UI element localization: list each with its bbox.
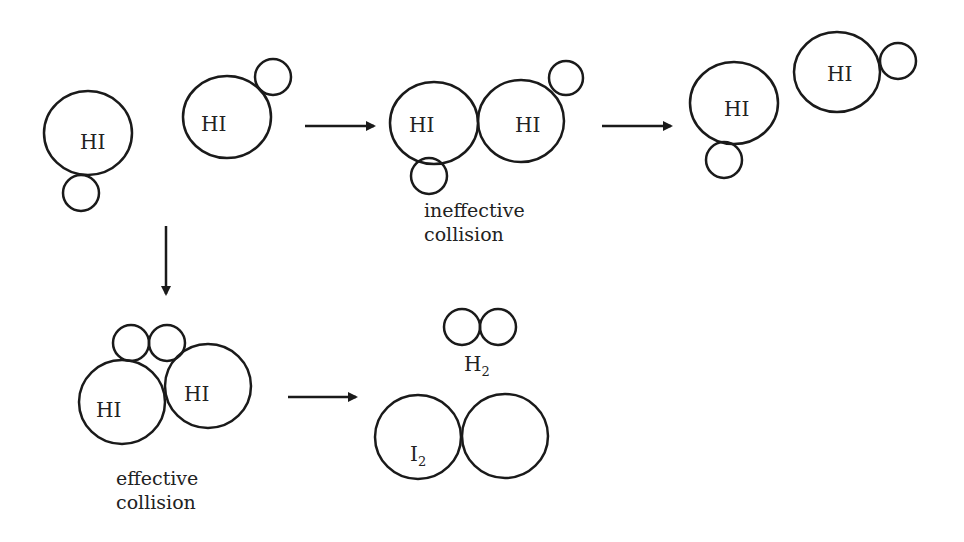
label-ineffective-hi-1: HI <box>409 115 434 135</box>
caption-effective-collision: effective collision <box>116 466 198 514</box>
label-reactant-hi-2: HI <box>201 114 226 134</box>
label-effective-hi-1: HI <box>96 400 121 420</box>
label-h2: H2 <box>464 354 490 378</box>
product-h2 <box>444 309 516 345</box>
label-rebound-hi-2: HI <box>827 64 852 84</box>
rebound-hi-2 <box>794 32 916 112</box>
effective-cluster <box>79 325 251 444</box>
label-rebound-hi-1: HI <box>724 99 749 119</box>
h2-subscript: 2 <box>481 364 489 379</box>
caption-line-1: effective <box>116 466 198 490</box>
i2-subscript: 2 <box>418 454 426 469</box>
label-i2: I2 <box>410 444 426 468</box>
product-i2 <box>375 394 548 479</box>
caption-ineffective-collision: ineffective collision <box>424 198 525 246</box>
caption-line-2: collision <box>116 490 198 514</box>
i2-symbol: I <box>410 442 418 466</box>
label-effective-hi-2: HI <box>184 384 209 404</box>
h2-symbol: H <box>464 352 481 376</box>
ineffective-hi-2 <box>478 61 583 162</box>
label-reactant-hi-1: HI <box>80 132 105 152</box>
caption-line-2: collision <box>424 222 525 246</box>
ineffective-hi-1 <box>390 82 478 194</box>
reactant-hi-2 <box>183 59 291 158</box>
caption-line-1: ineffective <box>424 198 525 222</box>
collision-diagram <box>0 0 964 542</box>
label-ineffective-hi-2: HI <box>515 115 540 135</box>
